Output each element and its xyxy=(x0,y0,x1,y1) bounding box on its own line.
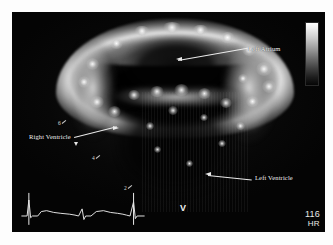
tissue-speckle xyxy=(154,146,161,153)
heart-wall-right xyxy=(220,36,296,148)
tissue-speckle xyxy=(110,38,123,49)
tissue-speckle xyxy=(90,96,104,108)
tissue-speckle xyxy=(192,25,209,35)
tissue-speckle xyxy=(150,86,164,97)
tissue-speckle xyxy=(186,160,193,167)
tissue-speckle xyxy=(146,122,154,130)
tissue-speckle xyxy=(168,106,178,115)
ecg-trace xyxy=(22,200,144,220)
tissue-speckle xyxy=(238,74,248,83)
septum-band xyxy=(102,82,252,116)
ultrasound-sector xyxy=(50,14,300,214)
tissue-speckle xyxy=(108,106,121,117)
tissue-speckle xyxy=(262,80,276,93)
tissue-speckle xyxy=(220,32,235,43)
ultrasound-page: Left Atrium Right Ventricle Left Ventric… xyxy=(0,0,333,245)
tissue-speckle xyxy=(236,122,245,130)
tissue-speckle xyxy=(218,140,226,147)
scanline-texture xyxy=(142,92,250,212)
heart-rate-unit: HR xyxy=(305,220,320,228)
caliper-label-6: 6 xyxy=(58,120,61,126)
caliper-mark-6: 6 xyxy=(58,120,67,126)
caliper-mark-4: 4 xyxy=(92,155,101,161)
sector-apex-marker: V xyxy=(180,203,186,213)
ecg-svg xyxy=(20,187,146,229)
myocardial-arc-top xyxy=(80,20,270,66)
tissue-speckle xyxy=(78,76,90,88)
annotation-label-left-ventricle: Left Ventricle xyxy=(255,174,293,181)
heart-rate-readout: 116 HR xyxy=(305,210,320,228)
tissue-speckle xyxy=(86,58,99,70)
caliper-label-4: 4 xyxy=(92,155,95,161)
annotation-label-left-atrium: Left Atrium xyxy=(248,45,281,52)
caliper-tick xyxy=(95,155,100,159)
tissue-speckle xyxy=(246,96,259,107)
ecg-waveform-strip xyxy=(20,187,146,229)
heart-wall-left xyxy=(52,40,118,144)
tissue-speckle xyxy=(162,22,182,33)
tissue-speckle xyxy=(200,114,208,121)
tissue-speckle xyxy=(220,98,232,108)
ultrasound-scan-panel: Left Atrium Right Ventricle Left Ventric… xyxy=(12,12,325,232)
annotation-label-right-ventricle: Right Ventricle xyxy=(29,133,71,140)
caliper-tick xyxy=(61,120,66,124)
tissue-speckle xyxy=(256,62,272,76)
tissue-speckle xyxy=(174,84,189,96)
chamber-upper-dark xyxy=(120,36,232,96)
tissue-speckle xyxy=(198,88,211,99)
grayscale-calibration-bar xyxy=(305,22,319,86)
tissue-speckle xyxy=(128,90,140,100)
tissue-speckle xyxy=(134,26,150,36)
myocardial-arc-outer xyxy=(56,18,294,138)
